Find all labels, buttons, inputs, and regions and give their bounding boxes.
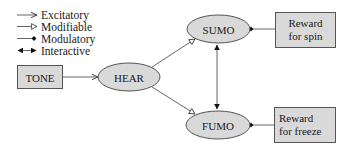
legend-label: Interactive [41, 45, 90, 57]
legend-label: Modifiable [41, 21, 92, 33]
node-label: FUMO [202, 120, 234, 132]
node-tone: TONE [18, 66, 63, 89]
node-sumo: SUMO [187, 15, 250, 43]
node-hear: HEAR [98, 63, 160, 91]
node-label: SUMO [203, 24, 235, 36]
node-label-line2: for spin [289, 30, 323, 42]
node-label: TONE [25, 72, 54, 84]
diagram-canvas: Excitatory Modifiable Modulatory Interac… [0, 0, 349, 150]
node-label: HEAR [114, 72, 145, 84]
edge-hear-sumo [152, 39, 195, 67]
legend-item-interactive: Interactive [18, 45, 90, 57]
node-fumo: FUMO [186, 111, 250, 139]
node-label-line2: for freeze [279, 125, 322, 137]
edge-hear-fumo [152, 87, 195, 114]
node-label-line1: Reward [279, 112, 314, 124]
legend: Excitatory Modifiable Modulatory Interac… [17, 9, 96, 57]
node-reward-spin: Reward for spin [276, 13, 336, 48]
node-reward-freeze: Reward for freeze [275, 108, 336, 143]
legend-item-modifiable: Modifiable [17, 21, 92, 33]
node-label-line1: Reward [288, 17, 323, 29]
